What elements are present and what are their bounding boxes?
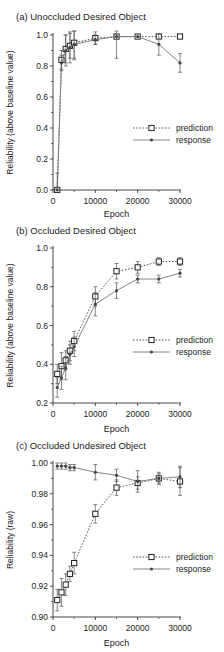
y-tick-label: 0.4 (36, 359, 48, 369)
legend-dot-icon (150, 350, 153, 353)
x-axis-ticks: 0100002000030000 (51, 617, 192, 633)
dot-marker (136, 480, 139, 483)
dot-marker (115, 289, 118, 292)
y-axis-label: Reliability (above baseline value) (5, 50, 15, 174)
legend: predictionresponse (133, 335, 213, 357)
series-response (55, 31, 182, 192)
x-tick-label: 30000 (168, 623, 192, 633)
x-axis-label: Epoch (104, 638, 130, 648)
square-marker (63, 582, 68, 587)
dot-marker (56, 386, 59, 389)
dot-marker (73, 345, 76, 348)
legend: predictionresponse (133, 552, 213, 574)
y-tick-label: 0.92 (31, 581, 48, 591)
dot-marker (73, 43, 76, 46)
legend-square-icon (149, 337, 154, 342)
dot-marker (56, 464, 59, 467)
panel-b-occluded-desired-object: (b) Occluded Desired Object0.20.40.60.81… (5, 225, 213, 434)
x-axis-ticks: 0100002000030000 (51, 190, 192, 206)
dot-marker (94, 471, 97, 474)
dot-marker (64, 367, 67, 370)
y-tick-label: 0.6 (36, 92, 48, 102)
y-tick-label: 0.2 (36, 398, 48, 408)
legend-response-label: response (176, 564, 211, 574)
y-tick-label: 0.98 (31, 489, 48, 499)
dot-marker (178, 272, 181, 275)
square-marker (135, 265, 140, 270)
y-tick-label: 0.4 (36, 123, 48, 133)
dot-marker (136, 35, 139, 38)
y-tick-label: 1.0 (36, 30, 48, 40)
panel-a-unoccluded-desired-object: (a) Unoccluded Desired Object0.00.20.40.… (5, 11, 213, 219)
x-tick-label: 30000 (168, 196, 192, 206)
dot-marker (64, 49, 67, 52)
dot-marker (157, 477, 160, 480)
y-tick-label: 0.0 (36, 185, 48, 195)
square-marker (59, 590, 64, 595)
dot-marker (94, 303, 97, 306)
x-axis-label: Epoch (104, 209, 130, 219)
y-axis-ticks: 0.00.20.40.60.81.0 (36, 30, 53, 195)
legend-prediction-label: prediction (176, 123, 213, 133)
dot-marker (178, 475, 181, 478)
dot-marker (56, 188, 59, 191)
x-tick-label: 20000 (126, 409, 150, 419)
x-tick-label: 10000 (84, 196, 108, 206)
x-tick-label: 0 (51, 623, 56, 633)
x-tick-label: 30000 (168, 409, 192, 419)
dot-marker (157, 43, 160, 46)
axes (53, 461, 181, 617)
dot-marker (115, 474, 118, 477)
legend-square-icon (149, 125, 154, 130)
y-axis-label: Reliability (raw) (5, 511, 15, 569)
x-tick-label: 10000 (84, 623, 108, 633)
dot-marker (64, 464, 67, 467)
dot-marker (68, 46, 71, 49)
square-marker (72, 561, 77, 566)
dot-marker (94, 38, 97, 41)
y-tick-label: 1.00 (31, 458, 48, 468)
y-tick-label: 0.96 (31, 520, 48, 530)
square-marker (114, 485, 119, 490)
y-tick-label: 0.90 (31, 612, 48, 622)
y-axis-ticks: 0.900.920.940.960.981.00 (31, 458, 53, 622)
panel-title: (b) Occluded Desired Object (16, 225, 136, 236)
legend-prediction-label: prediction (176, 335, 213, 345)
y-tick-label: 0.2 (36, 154, 48, 164)
dot-marker (136, 277, 139, 280)
dot-marker (60, 464, 63, 467)
x-tick-label: 20000 (126, 196, 150, 206)
dot-marker (60, 376, 63, 379)
legend-prediction-label: prediction (176, 552, 213, 562)
x-tick-label: 0 (51, 196, 56, 206)
y-tick-label: 0.8 (36, 282, 48, 292)
dot-marker (68, 353, 71, 356)
square-marker (156, 259, 161, 264)
square-marker (177, 34, 182, 39)
x-tick-label: 0 (51, 409, 56, 419)
y-axis-label: Reliability (above baseline value) (5, 263, 15, 387)
dot-marker (157, 277, 160, 280)
legend-dot-icon (150, 138, 153, 141)
x-tick-label: 10000 (84, 409, 108, 419)
legend-square-icon (149, 554, 154, 559)
y-axis-ticks: 0.20.40.60.81.0 (36, 243, 53, 408)
axes (53, 33, 181, 190)
square-marker (114, 269, 119, 274)
panel-title: (a) Unoccluded Desired Object (16, 11, 146, 22)
panel-c-occluded-undesired-object: (c) Occluded Undesired Object0.900.920.9… (5, 440, 213, 648)
square-marker (55, 371, 60, 376)
legend-dot-icon (150, 567, 153, 570)
legend: predictionresponse (133, 123, 213, 145)
legend-response-label: response (176, 135, 211, 145)
square-marker (93, 511, 98, 516)
series-prediction (55, 468, 183, 611)
series-prediction (55, 258, 183, 384)
dot-marker (73, 466, 76, 469)
panel-title: (c) Occluded Undesired Object (16, 440, 146, 451)
dot-marker (60, 61, 63, 64)
legend-response-label: response (176, 347, 211, 357)
square-marker (55, 597, 60, 602)
y-tick-label: 0.8 (36, 61, 48, 71)
figure: (a) Unoccluded Desired Object0.00.20.40.… (0, 0, 224, 652)
